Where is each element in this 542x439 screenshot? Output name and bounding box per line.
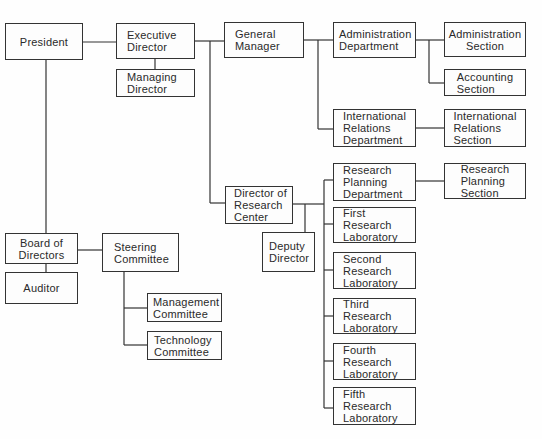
node-board-of-directors: Board of Directors	[5, 233, 78, 264]
node-label: Second Research Laboratory	[343, 253, 398, 289]
node-general-manager: General Manager	[224, 22, 304, 58]
node-auditor: Auditor	[5, 272, 78, 304]
node-managing-director: Managing Director	[116, 69, 195, 97]
node-label: Accounting Section	[457, 71, 513, 95]
node-international-relations-department: International Relations Department	[333, 109, 416, 147]
node-label: Administration Department	[339, 28, 412, 52]
node-label: Fourth Research Laboratory	[343, 344, 398, 380]
node-deputy-director: Deputy Director	[262, 232, 315, 272]
node-management-committee: Management Committee	[147, 293, 222, 322]
node-administration-section: Administration Section	[444, 22, 526, 57]
node-label: Technology Committee	[154, 334, 212, 358]
node-label: First Research Laboratory	[343, 207, 398, 243]
node-label: Managing Director	[127, 71, 177, 95]
node-label: Research Planning Department	[343, 164, 402, 200]
node-label: President	[20, 36, 68, 48]
node-second-research-laboratory: Second Research Laboratory	[333, 252, 416, 289]
node-label: General Manager	[235, 28, 280, 52]
node-research-planning-department: Research Planning Department	[333, 163, 416, 201]
node-label: Board of Directors	[19, 237, 65, 261]
node-president: President	[5, 23, 83, 60]
node-director-of-research-center: Director of Research Center	[225, 186, 293, 224]
node-label: Third Research Laboratory	[343, 298, 398, 334]
node-first-research-laboratory: First Research Laboratory	[333, 207, 416, 243]
node-administration-department: Administration Department	[333, 22, 416, 58]
node-label: Steering Committee	[114, 241, 169, 265]
node-fourth-research-laboratory: Fourth Research Laboratory	[333, 343, 416, 380]
node-label: Executive Director	[127, 29, 177, 53]
node-executive-director: Executive Director	[116, 23, 195, 59]
node-label: Management Committee	[153, 296, 219, 320]
node-fifth-research-laboratory: Fifth Research Laboratory	[333, 387, 416, 425]
node-accounting-section: Accounting Section	[444, 69, 526, 96]
node-label: Deputy Director	[269, 240, 309, 264]
node-label: Auditor	[23, 282, 59, 294]
node-label: Administration Section	[449, 28, 522, 52]
node-label: International Relations Section	[453, 110, 516, 146]
node-research-planning-section: Research Planning Section	[444, 163, 526, 199]
node-third-research-laboratory: Third Research Laboratory	[333, 298, 416, 334]
node-label: Fifth Research Laboratory	[343, 388, 398, 424]
node-label: Director of Research Center	[234, 187, 287, 223]
node-label: International Relations Department	[343, 110, 406, 146]
node-steering-committee: Steering Committee	[102, 233, 179, 272]
node-label: Research Planning Section	[461, 163, 510, 199]
node-technology-committee: Technology Committee	[147, 331, 222, 360]
node-international-relations-section: International Relations Section	[444, 109, 526, 147]
